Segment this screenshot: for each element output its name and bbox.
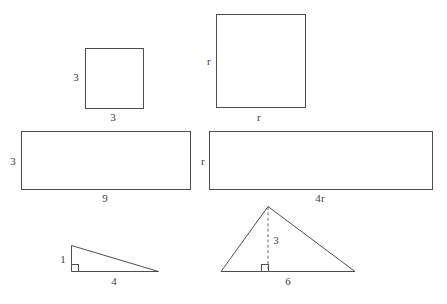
left-rectangle-side-label: 3 bbox=[10, 156, 16, 167]
large-triangle-right-angle-marker bbox=[262, 265, 269, 272]
geometry-shapes-svg bbox=[0, 0, 447, 304]
small-right-triangle-shape bbox=[72, 246, 159, 272]
small-square-base-label: 3 bbox=[110, 112, 116, 123]
large-square-base-label: r bbox=[257, 112, 261, 123]
large-triangle-base-label: 6 bbox=[285, 276, 291, 287]
small-square-side-label: 3 bbox=[73, 72, 79, 83]
right-rectangle-side-label: r bbox=[201, 156, 205, 167]
small-square-shape bbox=[86, 49, 144, 109]
right-rectangle-base-label: 4r bbox=[315, 193, 325, 204]
large-triangle-height-label: 3 bbox=[273, 235, 279, 246]
small-triangle-right-angle-marker bbox=[72, 265, 79, 272]
left-rectangle-shape bbox=[22, 132, 191, 190]
large-triangle-shape bbox=[221, 207, 355, 272]
right-rectangle-shape bbox=[210, 132, 433, 190]
left-rectangle-base-label: 9 bbox=[102, 193, 108, 204]
small-triangle-base-label: 4 bbox=[111, 276, 117, 287]
large-square-side-label: r bbox=[207, 56, 211, 67]
large-square-shape bbox=[217, 15, 306, 108]
geometry-figure-canvas: 3 3 r r 3 9 r 4r 1 4 3 6 bbox=[0, 0, 447, 304]
small-triangle-height-label: 1 bbox=[60, 254, 66, 265]
